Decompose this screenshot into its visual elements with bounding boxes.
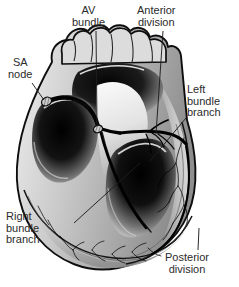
label-left-bundle-branch: Left bundle branch bbox=[187, 84, 221, 119]
label-sa-node: SA node bbox=[8, 57, 32, 80]
label-right-bundle-branch: Right bundle branch bbox=[6, 211, 40, 246]
label-posterior-division: Posterior division bbox=[165, 252, 209, 275]
label-av-bundle: AV bundle bbox=[72, 5, 105, 28]
label-anterior-division: Anterior division bbox=[137, 5, 176, 28]
